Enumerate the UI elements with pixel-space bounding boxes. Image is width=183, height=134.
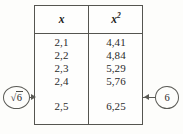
cell-x-squared: 4,41 — [89, 36, 143, 49]
cell-x-squared: 5,76 — [89, 75, 143, 88]
table-row: 2,1 4,41 — [35, 36, 142, 49]
cell-x: 2,3 — [35, 62, 88, 75]
column-header-x-squared-exponent: 2 — [117, 11, 121, 20]
column-header-x-squared: x2 — [89, 6, 143, 33]
cell-x: 2,2 — [35, 49, 88, 62]
sqrt-icon: √6 — [10, 91, 22, 103]
annotation-bubble-sqrt-six: √6 — [3, 86, 30, 109]
squares-table: x x2 2,1 4,41 2,2 4,84 2,3 5,29 2,4 5,76… — [34, 5, 143, 125]
column-header-x: x — [35, 6, 88, 33]
column-header-x-label: x — [59, 13, 65, 25]
annotation-six-label: 6 — [164, 92, 169, 103]
arrow-right-icon — [31, 94, 36, 100]
table-row: 2,5 6,25 — [35, 100, 142, 113]
arrow-left-icon — [144, 94, 149, 100]
table-row: 2,3 5,29 — [35, 62, 142, 75]
table-row: 2,2 4,84 — [35, 49, 142, 62]
cell-x: 2,4 — [35, 75, 88, 88]
radicand-label: 6 — [16, 91, 22, 103]
annotation-bubble-six: 6 — [155, 86, 179, 109]
cell-x: 2,1 — [35, 36, 88, 49]
cell-x-squared: 4,84 — [89, 49, 143, 62]
cell-x-squared: 5,29 — [89, 62, 143, 75]
table-body: 2,1 4,41 2,2 4,84 2,3 5,29 2,4 5,76 2,5 … — [35, 34, 142, 124]
table-row: 2,4 5,76 — [35, 75, 142, 88]
cell-x: 2,5 — [35, 100, 88, 113]
cell-x-squared: 6,25 — [89, 100, 143, 113]
